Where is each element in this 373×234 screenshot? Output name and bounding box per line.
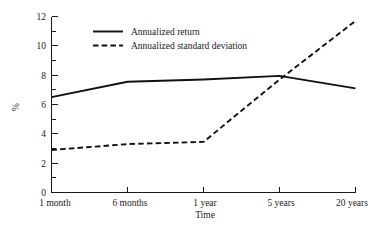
line-chart: 12 10 8 6 4 2 0 % 1 month 6 months 1 yea… — [0, 0, 373, 234]
legend-label-annualized-standard-deviation: Annualized standard deviation — [131, 41, 247, 51]
chart-figure: 12 10 8 6 4 2 0 % 1 month 6 months 1 yea… — [0, 0, 373, 234]
y-tick-label: 10 — [37, 41, 47, 51]
y-tick-label: 4 — [41, 129, 46, 139]
x-axis-title: Time — [195, 210, 215, 220]
y-axis-title: % — [11, 103, 21, 111]
x-tick-label: 6 months — [112, 198, 147, 208]
y-tick-label: 0 — [41, 188, 46, 198]
y-tick-label: 6 — [41, 100, 46, 110]
y-tick-label: 8 — [41, 71, 46, 81]
x-tick-label: 20 years — [336, 198, 368, 208]
x-tick-label: 5 years — [267, 198, 294, 208]
y-tick-label: 12 — [37, 12, 47, 22]
x-tick-label: 1 year — [193, 198, 217, 208]
x-tick-label: 1 month — [39, 198, 71, 208]
y-tick-label: 2 — [41, 159, 46, 169]
legend-label-annualized-return: Annualized return — [131, 27, 200, 37]
